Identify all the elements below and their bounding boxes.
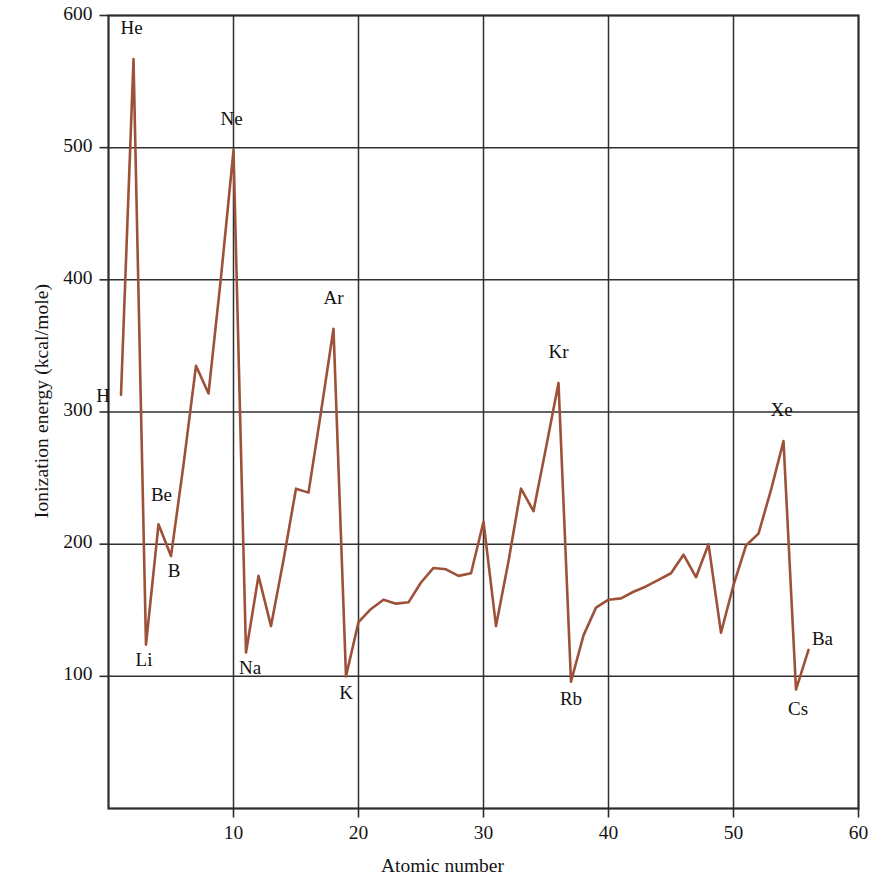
y-tick-label: 200	[27, 531, 93, 553]
y-tick-label: 100	[27, 663, 93, 685]
chart-plot-area	[0, 0, 885, 895]
tick-marks	[100, 16, 859, 818]
x-tick-label: 50	[704, 822, 764, 844]
x-tick-label: 30	[454, 822, 514, 844]
y-tick-label: 400	[27, 267, 93, 289]
x-tick-label: 20	[329, 822, 389, 844]
x-axis-label: Atomic number	[0, 855, 885, 877]
element-label-xe: Xe	[752, 399, 812, 421]
gridlines	[109, 16, 859, 809]
element-label-na: Na	[220, 657, 280, 679]
ionization-energy-figure: Ionization energy (kcal/mole) Atomic num…	[0, 0, 885, 895]
x-tick-label: 10	[204, 822, 264, 844]
element-label-k: K	[316, 682, 376, 704]
element-label-cs: Cs	[768, 698, 828, 720]
x-tick-label: 60	[829, 822, 885, 844]
element-label-rb: Rb	[541, 688, 601, 710]
y-tick-label: 600	[27, 3, 93, 25]
element-label-h: H	[73, 385, 133, 407]
ionization-energy-line	[121, 59, 809, 689]
element-label-ar: Ar	[304, 287, 364, 309]
y-tick-label: 500	[27, 135, 93, 157]
x-tick-label: 40	[579, 822, 639, 844]
element-label-b: B	[144, 560, 204, 582]
element-label-be: Be	[132, 484, 192, 506]
element-label-kr: Kr	[529, 341, 589, 363]
element-label-he: He	[102, 17, 162, 39]
element-label-ba: Ba	[793, 628, 853, 650]
element-label-li: Li	[114, 649, 174, 671]
element-label-ne: Ne	[202, 108, 262, 130]
